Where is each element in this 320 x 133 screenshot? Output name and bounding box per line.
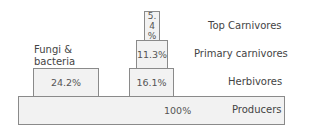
top-carnivores-value: 5.4 % <box>146 11 158 41</box>
fungi-label-line2: bacteria <box>34 56 75 68</box>
primary-carnivores-label: Primary carnivores <box>194 48 288 59</box>
fungi-label: Fungi & bacteria <box>34 44 75 68</box>
primary-carnivores-box: 11.3% <box>136 40 168 69</box>
fungi-box: 24.2% <box>33 68 99 97</box>
herbivores-value: 16.1% <box>136 77 166 88</box>
fungi-label-line1: Fungi & <box>34 44 75 56</box>
herbivores-box: 16.1% <box>129 68 174 97</box>
fungi-value: 24.2% <box>51 77 81 88</box>
primary-carnivores-value: 11.3% <box>137 49 167 60</box>
top-carnivores-box: 5.4 % <box>144 11 160 41</box>
producers-value: 100% <box>164 105 191 116</box>
herbivores-label: Herbivores <box>228 76 282 87</box>
producers-label: Producers <box>232 104 282 115</box>
top-carnivores-label: Top Carnivores <box>208 20 282 31</box>
